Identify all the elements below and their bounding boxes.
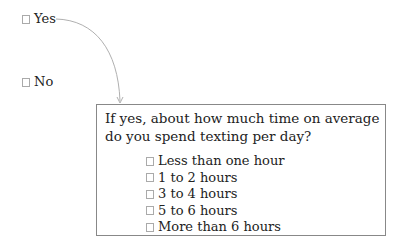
option-label: 3 to 4 hours — [158, 186, 237, 203]
option-label: Less than one hour — [158, 153, 284, 170]
option-label: More than 6 hours — [158, 219, 281, 236]
option-more-than-6-hours[interactable]: More than 6 hours — [146, 219, 284, 236]
checkbox[interactable] — [146, 223, 154, 232]
checkbox[interactable] — [22, 15, 30, 24]
followup-box: If yes, about how much time on average d… — [96, 104, 386, 236]
checkbox[interactable] — [22, 78, 30, 87]
checkbox[interactable] — [146, 190, 154, 199]
option-1-to-2-hours[interactable]: 1 to 2 hours — [146, 170, 284, 187]
option-label: Yes — [34, 11, 56, 27]
option-less-than-one-hour[interactable]: Less than one hour — [146, 153, 284, 170]
followup-question: If yes, about how much time on average d… — [105, 109, 380, 145]
checkbox[interactable] — [146, 206, 154, 215]
option-no[interactable]: No — [22, 74, 53, 90]
checkbox[interactable] — [146, 173, 154, 182]
checkbox[interactable] — [146, 157, 154, 166]
option-5-to-6-hours[interactable]: 5 to 6 hours — [146, 203, 284, 220]
followup-options: Less than one hour 1 to 2 hours 3 to 4 h… — [146, 153, 284, 236]
option-label: 1 to 2 hours — [158, 170, 237, 187]
option-3-to-4-hours[interactable]: 3 to 4 hours — [146, 186, 284, 203]
option-label: 5 to 6 hours — [158, 203, 237, 220]
option-yes[interactable]: Yes — [22, 11, 56, 27]
option-label: No — [34, 74, 53, 90]
